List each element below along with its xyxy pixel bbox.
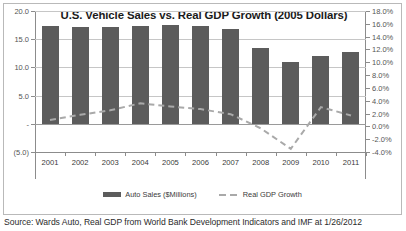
legend-label-real-gdp-growth: Real GDP Growth xyxy=(243,190,302,199)
x-axis-label-2003: 2003 xyxy=(102,158,119,167)
left-axis-tick-label: 5.0 xyxy=(19,91,29,100)
dashed-line-swatch-icon xyxy=(219,192,239,197)
right-axis-tick-label: 10.0% xyxy=(372,58,393,67)
x-axis-label-2010: 2010 xyxy=(312,158,329,167)
right-axis-tick-label: 6.0% xyxy=(372,83,389,92)
left-axis-tick-label: 10.0 xyxy=(14,63,29,72)
bar-swatch-icon xyxy=(103,192,121,197)
x-axis-label-2005: 2005 xyxy=(162,158,179,167)
right-axis-tick-label: 0.0% xyxy=(372,122,389,131)
legend-item-auto-sales: Auto Sales ($Millions) xyxy=(103,190,196,199)
x-axis-tick xyxy=(366,152,367,156)
x-axis-label-2001: 2001 xyxy=(42,158,59,167)
x-axis-label-2007: 2007 xyxy=(222,158,239,167)
right-axis-tick xyxy=(366,114,370,115)
x-axis-label-2009: 2009 xyxy=(282,158,299,167)
source-note: Source: Wards Auto, Real GDP from World … xyxy=(4,217,362,227)
right-axis-tick-label: 12.0% xyxy=(372,45,393,54)
legend-item-real-gdp-growth: Real GDP Growth xyxy=(219,190,302,199)
gdp-growth-dashed-path xyxy=(50,103,351,149)
right-axis-tick xyxy=(366,11,370,12)
chart-legend: Auto Sales ($Millions) Real GDP Growth xyxy=(4,190,401,199)
right-axis-tick xyxy=(366,101,370,102)
right-axis-tick-label: 18.0% xyxy=(372,7,393,16)
right-axis-tick-label: 2.0% xyxy=(372,109,389,118)
right-axis-tick xyxy=(366,62,370,63)
right-axis-tick-label: -4.0% xyxy=(372,148,392,157)
bottom-axis-line xyxy=(35,152,366,153)
line-series-real-gdp-growth xyxy=(35,11,366,179)
left-axis-tick-label: (5.0) xyxy=(14,148,29,157)
plot-area: 20.015.010.05.0-(5.0) 18.0%16.0%14.0%12.… xyxy=(35,11,366,179)
x-axis-label-2008: 2008 xyxy=(252,158,269,167)
right-axis-tick-label: -2.0% xyxy=(372,135,392,144)
right-axis-tick-label: 16.0% xyxy=(372,19,393,28)
right-axis-tick-label: 8.0% xyxy=(372,71,389,80)
right-axis-tick xyxy=(366,75,370,76)
right-axis-tick xyxy=(366,88,370,89)
right-axis-tick xyxy=(366,139,370,140)
left-axis-tick-label: 20.0 xyxy=(14,7,29,16)
chart-figure: U.S. Vehicle Sales vs. Real GDP Growth (… xyxy=(0,0,406,231)
left-axis-tick-label: 15.0 xyxy=(14,35,29,44)
legend-label-auto-sales: Auto Sales ($Millions) xyxy=(125,190,196,199)
x-axis-label-2011: 2011 xyxy=(343,158,359,167)
right-axis-tick xyxy=(366,126,370,127)
x-axis-label-2004: 2004 xyxy=(132,158,149,167)
right-axis-tick xyxy=(366,24,370,25)
right-axis-tick-label: 14.0% xyxy=(372,32,393,41)
chart-plot-card: U.S. Vehicle Sales vs. Real GDP Growth (… xyxy=(3,3,402,215)
x-axis-label-2006: 2006 xyxy=(192,158,209,167)
left-axis-tick-label: - xyxy=(27,119,30,128)
x-axis-label-2002: 2002 xyxy=(72,158,89,167)
right-axis-tick xyxy=(366,49,370,50)
right-axis-tick-label: 4.0% xyxy=(372,96,389,105)
right-axis-tick xyxy=(366,37,370,38)
